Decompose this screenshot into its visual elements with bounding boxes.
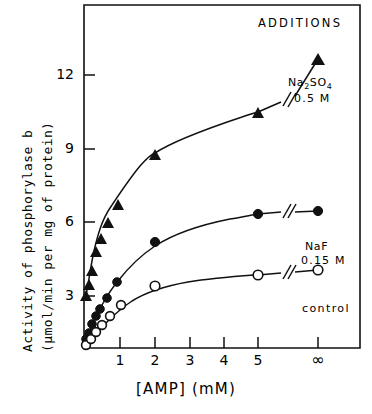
x-tick-label-2: 2 xyxy=(145,352,165,368)
series-na2so4-curve xyxy=(86,59,318,296)
series-naf-break-mark xyxy=(283,204,296,218)
y-axis-title-line1: Activity of phosphorylase b xyxy=(20,130,35,352)
series-control-break-mark xyxy=(283,265,296,279)
y-axis-title-line2: (μmol/min per mg of protein) xyxy=(40,122,55,352)
series-naf-markers xyxy=(82,206,323,343)
legend-header: ADDITIONS xyxy=(258,16,342,30)
x-tick-label-1: 1 xyxy=(110,352,130,368)
y-tick-marks xyxy=(84,75,95,296)
series-label-naf: NaF 0.15 M xyxy=(305,240,346,268)
series-label-naf-conc: 0.15 M xyxy=(301,254,346,268)
x-tick-marks xyxy=(120,337,318,348)
y-tick-label-6: 6 xyxy=(50,213,74,229)
series-label-na2so4-conc: 0.5 M xyxy=(294,92,332,106)
y-tick-label-3: 3 xyxy=(50,287,74,303)
series-naf-curve xyxy=(86,211,318,339)
x-axis-title: [AMP] (mM) xyxy=(0,380,372,398)
y-tick-label-12: 12 xyxy=(50,66,74,82)
series-label-naf-name: NaF xyxy=(305,240,328,253)
series-label-na2so4-name: Na2SO4 xyxy=(288,76,332,89)
series-label-control: control xyxy=(302,302,350,316)
figure-root: Activity of phosphorylase b (μmol/min pe… xyxy=(0,0,372,414)
y-tick-label-9: 9 xyxy=(50,140,74,156)
series-label-na2so4: Na2SO4 0.5 M xyxy=(288,76,332,106)
x-tick-label-4: 4 xyxy=(214,352,234,368)
x-tick-label-infinity: ∞ xyxy=(308,350,328,369)
x-tick-label-5: 5 xyxy=(248,352,268,368)
x-tick-label-3: 3 xyxy=(180,352,200,368)
